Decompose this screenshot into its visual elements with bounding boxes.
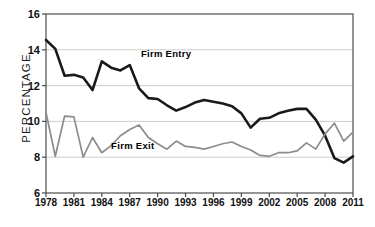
- series-label: Firm Entry: [141, 48, 192, 59]
- chart-container: PERCENTAGE 1614121086 197819811984198719…: [0, 0, 375, 227]
- x-tick-label: 1996: [202, 197, 224, 208]
- plot-frame: [46, 14, 353, 193]
- x-tick-label: 1981: [63, 197, 85, 208]
- x-tick-label: 1978: [35, 197, 57, 208]
- x-tick-label: 2005: [286, 197, 308, 208]
- x-tick-label: 1990: [147, 197, 169, 208]
- series-label: Firm Exit: [111, 140, 154, 151]
- x-axis-tick-labels: 1978198119841987199019931996199920022005…: [0, 197, 375, 217]
- plot-area: [0, 0, 375, 227]
- x-tick-label: 2011: [342, 197, 364, 208]
- x-tick-label: 1984: [91, 197, 113, 208]
- x-tick-label: 2008: [314, 197, 336, 208]
- series-line-firm-exit: [46, 112, 353, 157]
- x-tick-label: 1993: [174, 197, 196, 208]
- x-tick-label: 1999: [230, 197, 252, 208]
- x-tick-label: 1987: [119, 197, 141, 208]
- x-tick-label: 2002: [258, 197, 280, 208]
